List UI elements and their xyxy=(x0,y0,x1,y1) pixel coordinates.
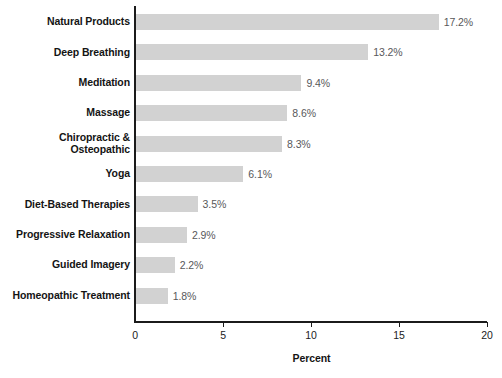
x-axis-tick xyxy=(487,322,488,327)
bar-chart: Natural Products17.2%Deep Breathing13.2%… xyxy=(0,0,502,378)
bar-value-label: 9.4% xyxy=(306,77,330,89)
bar-rows: Natural Products17.2%Deep Breathing13.2%… xyxy=(0,0,502,322)
bar-value-label: 2.9% xyxy=(192,229,216,241)
bar xyxy=(136,288,168,304)
bar-with-value: 17.2% xyxy=(136,14,473,30)
bar-row: Natural Products17.2% xyxy=(0,7,502,37)
category-label: Yoga xyxy=(4,159,130,189)
bar-row: Progressive Relaxation2.9% xyxy=(0,220,502,250)
x-axis-ticks: 05101520 xyxy=(0,322,502,346)
x-axis-tick-label: 15 xyxy=(379,329,419,341)
bar-row: Diet-Based Therapies3.5% xyxy=(0,189,502,219)
category-label: Natural Products xyxy=(4,7,130,37)
bar xyxy=(136,166,243,182)
bar-value-label: 17.2% xyxy=(444,16,473,28)
category-label: Diet-Based Therapies xyxy=(4,189,130,219)
bar-value-label: 3.5% xyxy=(203,198,227,210)
bar-row: Yoga6.1% xyxy=(0,159,502,189)
category-label: Chiropractic & Osteopathic xyxy=(4,129,130,159)
bar-with-value: 1.8% xyxy=(136,288,196,304)
bar xyxy=(136,44,368,60)
bar-with-value: 8.6% xyxy=(136,105,316,121)
bar xyxy=(136,14,439,30)
category-label: Deep Breathing xyxy=(4,37,130,67)
category-label: Homeopathic Treatment xyxy=(4,281,130,311)
bar-row: Homeopathic Treatment1.8% xyxy=(0,281,502,311)
x-axis-tick xyxy=(223,322,224,327)
bar-value-label: 6.1% xyxy=(248,168,272,180)
bar-with-value: 8.3% xyxy=(136,136,311,152)
bar-with-value: 2.9% xyxy=(136,227,216,243)
bar-row: Meditation9.4% xyxy=(0,68,502,98)
bar xyxy=(136,136,282,152)
bar-value-label: 1.8% xyxy=(173,290,197,302)
category-label: Progressive Relaxation xyxy=(4,220,130,250)
x-axis-tick xyxy=(399,322,400,327)
bar xyxy=(136,196,198,212)
bar-row: Chiropractic & Osteopathic8.3% xyxy=(0,129,502,159)
x-axis-tick-label: 10 xyxy=(291,329,331,341)
category-label: Guided Imagery xyxy=(4,250,130,280)
x-axis-tick-label: 20 xyxy=(467,329,502,341)
bar-row: Guided Imagery2.2% xyxy=(0,250,502,280)
bar-value-label: 13.2% xyxy=(373,46,402,58)
category-label: Meditation xyxy=(4,68,130,98)
bar-row: Massage8.6% xyxy=(0,98,502,128)
x-axis-tick-label: 0 xyxy=(115,329,155,341)
bar-value-label: 2.2% xyxy=(180,259,204,271)
bar-value-label: 8.6% xyxy=(292,107,316,119)
bar xyxy=(136,105,287,121)
bar-value-label: 8.3% xyxy=(287,138,311,150)
bar-with-value: 6.1% xyxy=(136,166,272,182)
bar-with-value: 13.2% xyxy=(136,44,403,60)
bar-row: Deep Breathing13.2% xyxy=(0,37,502,67)
bar-with-value: 2.2% xyxy=(136,257,203,273)
bar xyxy=(136,257,175,273)
bar-with-value: 9.4% xyxy=(136,75,330,91)
bar-with-value: 3.5% xyxy=(136,196,226,212)
bar xyxy=(136,227,187,243)
x-axis-tick xyxy=(311,322,312,327)
bar xyxy=(136,75,301,91)
category-label: Massage xyxy=(4,98,130,128)
x-axis-tick-label: 5 xyxy=(203,329,243,341)
x-axis-title: Percent xyxy=(135,352,488,364)
